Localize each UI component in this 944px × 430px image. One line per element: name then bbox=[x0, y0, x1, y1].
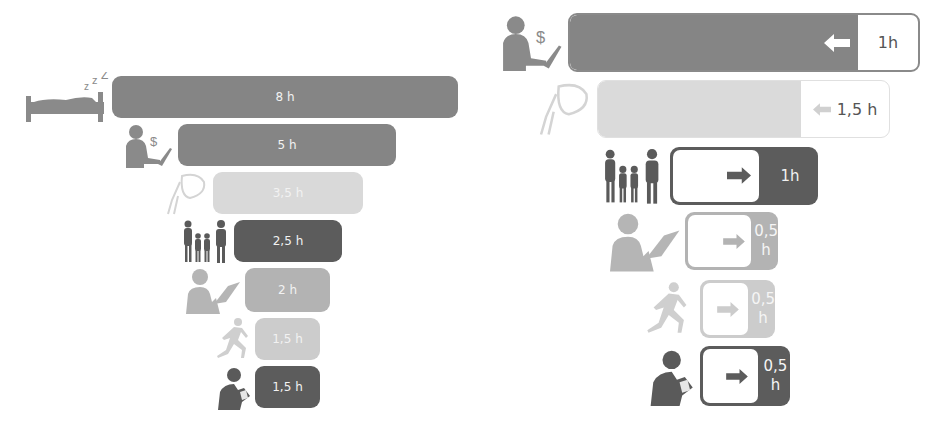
bar-label: 3,5 h bbox=[273, 186, 304, 200]
svg-text:$: $ bbox=[150, 134, 158, 149]
remaining-fill bbox=[570, 15, 858, 70]
svg-text:$: $ bbox=[536, 28, 545, 46]
bar-label: 1,5 h bbox=[272, 332, 303, 346]
bed-zzz-icon: z z Z bbox=[26, 72, 112, 122]
bar-sleep: 8 h bbox=[112, 76, 458, 118]
added-space bbox=[688, 215, 751, 267]
laptop-money-icon: $ bbox=[122, 124, 174, 168]
bar-label: 2 h bbox=[278, 283, 297, 297]
added-space bbox=[703, 349, 758, 403]
change-label: 1,5 h bbox=[837, 100, 878, 119]
change-box-chores: 1,5 h bbox=[597, 80, 890, 138]
bar-reading: 2 h bbox=[245, 268, 330, 312]
bar-exercise: 1,5 h bbox=[255, 318, 320, 360]
added-space bbox=[673, 150, 759, 202]
bar-family: 2,5 h bbox=[234, 220, 342, 262]
change-box-prayer: 0,5 h bbox=[700, 346, 790, 406]
svg-text:z: z bbox=[84, 81, 89, 92]
arrow-right-icon bbox=[726, 369, 748, 384]
change-box-family: 1h bbox=[670, 147, 818, 205]
svg-text:Z: Z bbox=[101, 72, 108, 82]
bar-label: 5 h bbox=[277, 138, 296, 152]
pushing-boulder-icon bbox=[536, 78, 594, 138]
change-box-reading: 0,5 h bbox=[685, 212, 778, 270]
reading-icon bbox=[610, 212, 682, 272]
change-label: 1h bbox=[762, 147, 818, 205]
praying-icon bbox=[648, 348, 698, 406]
arrow-right-icon bbox=[727, 167, 751, 184]
arrow-left-icon bbox=[824, 34, 850, 52]
family-icon bbox=[600, 148, 666, 206]
arrow-left-icon bbox=[813, 103, 831, 116]
bar-label: 8 h bbox=[275, 90, 294, 104]
change-label: 0,5 h bbox=[754, 212, 778, 270]
change-label-wrap: 1,5 h bbox=[801, 81, 889, 137]
pushing-boulder-icon bbox=[164, 170, 210, 216]
arrow-right-icon bbox=[717, 302, 739, 317]
added-space bbox=[703, 283, 748, 335]
running-icon bbox=[646, 282, 694, 338]
change-box-exercise: 0,5 h bbox=[700, 280, 775, 338]
svg-text:z: z bbox=[92, 74, 98, 86]
reading-icon bbox=[186, 268, 242, 314]
running-icon bbox=[216, 318, 254, 362]
bar-label: 2,5 h bbox=[273, 234, 304, 248]
bar-chores: 3,5 h bbox=[213, 172, 363, 214]
bar-work: 5 h bbox=[178, 124, 396, 166]
laptop-money-icon: $ bbox=[498, 14, 564, 72]
bar-label: 1,5 h bbox=[272, 380, 303, 394]
arrow-right-icon bbox=[723, 234, 745, 249]
family-icon bbox=[180, 220, 232, 264]
change-label: 1h bbox=[858, 15, 918, 70]
change-label: 0,5 h bbox=[751, 280, 775, 338]
change-label: 0,5 h bbox=[761, 346, 790, 406]
change-box-work: 1h bbox=[568, 13, 920, 72]
praying-icon bbox=[216, 366, 254, 410]
remaining-fill bbox=[598, 81, 801, 137]
bar-prayer: 1,5 h bbox=[255, 366, 320, 408]
